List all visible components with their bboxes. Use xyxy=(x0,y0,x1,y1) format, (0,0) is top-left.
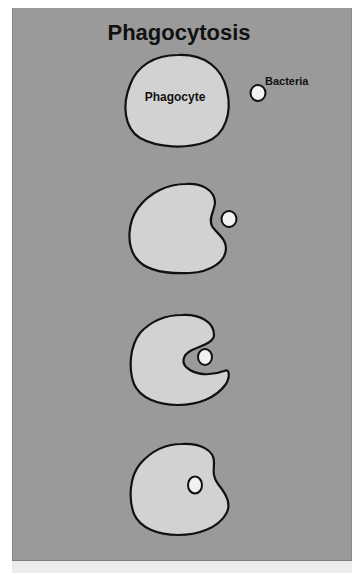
phagocyte-cell-3 xyxy=(131,315,229,405)
stage-3 xyxy=(131,315,229,405)
bacteria-2 xyxy=(222,211,237,227)
stage-1: Phagocyte Bacteria xyxy=(125,55,309,147)
stage-4 xyxy=(131,444,229,535)
phagocyte-cell-4 xyxy=(131,444,229,535)
bacteria-3 xyxy=(198,349,212,365)
bacteria-label: Bacteria xyxy=(265,75,309,87)
phagocyte-label: Phagocyte xyxy=(145,90,206,104)
bacteria-4 xyxy=(188,477,202,494)
stage-2 xyxy=(129,184,236,273)
bacteria-1 xyxy=(251,85,266,101)
phagocyte-cell-2 xyxy=(129,184,226,273)
